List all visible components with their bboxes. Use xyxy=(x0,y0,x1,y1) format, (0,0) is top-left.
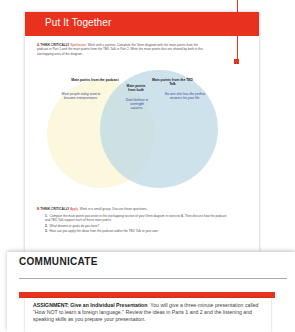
exercise-label: THINK CRITICALLY xyxy=(40,207,69,211)
venn-heading-middle: Main points from both xyxy=(123,84,149,92)
question-item: 3.How can you apply the ideas from the p… xyxy=(45,229,230,233)
question-number: 2. xyxy=(45,224,48,228)
venn-circle-ted-talk xyxy=(100,70,218,188)
venn-text-middle: Don't believe in overnight success. xyxy=(125,98,149,110)
venn-heading-right: Main points from the TED Talk xyxy=(150,78,195,86)
exercise-letter: B xyxy=(37,207,39,211)
question-item: 2.What dreams or goals do you have? xyxy=(45,224,230,228)
question-item: 1.Compare the main points you wrote in t… xyxy=(45,214,230,223)
assignment-box: ASSIGNMENT: Give an Individual Presentat… xyxy=(25,298,271,332)
connector-line xyxy=(237,36,238,60)
exercise-skill: Apply. xyxy=(70,207,79,211)
exercise-b: B THINK CRITICALLY Apply. Work in a smal… xyxy=(37,207,237,211)
communicate-panel: COMMUNICATE ASSIGNMENT: Give an Individu… xyxy=(7,252,295,332)
assignment-label: ASSIGNMENT: Give an Individual Presentat… xyxy=(33,302,147,308)
venn-text-left: More people today want to become entrepr… xyxy=(57,92,105,100)
question-text: Compare the main points you wrote in the… xyxy=(45,214,226,222)
connector-line xyxy=(237,0,238,12)
exercise-letter: A xyxy=(37,43,39,47)
exercise-a: A THINK CRITICALLY Synthesize. Work with… xyxy=(37,43,207,56)
assignment-text: ASSIGNMENT: Give an Individual Presentat… xyxy=(33,302,265,324)
question-text: How can you apply the ideas from the pod… xyxy=(50,229,158,233)
question-list: 1.Compare the main points you wrote in t… xyxy=(45,214,230,234)
venn-text-right: No one else has the perfect answers for … xyxy=(163,92,207,100)
exercise-skill: Synthesize. xyxy=(70,43,86,47)
divider xyxy=(19,278,287,279)
connector-dot xyxy=(234,59,239,64)
question-number: 3. xyxy=(45,229,48,233)
section-banner: Put It Together xyxy=(25,12,259,36)
venn-heading-left: Main points from the podcast xyxy=(71,78,119,82)
communicate-title: COMMUNICATE xyxy=(19,256,98,267)
section-title: Put It Together xyxy=(45,17,111,28)
question-text: What dreams or goals do you have? xyxy=(50,224,100,228)
textbook-page: Put It Together A THINK CRITICALLY Synth… xyxy=(25,12,259,252)
exercise-label: THINK CRITICALLY xyxy=(40,43,69,47)
exercise-instructions: Work in a small group. Discuss these que… xyxy=(80,207,148,211)
